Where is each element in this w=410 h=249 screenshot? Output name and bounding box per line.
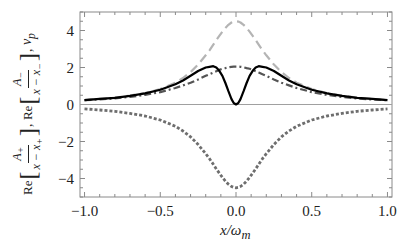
x-axis-label: x/ωm bbox=[220, 222, 250, 243]
y-label-p-sub: p bbox=[24, 33, 37, 39]
y-axis-label: Re [ A+ x − x+ ] , Re [ A− x − x− ] , vp bbox=[8, 5, 48, 195]
y-tick-label: 4 bbox=[67, 23, 75, 39]
y-label-vp: vp bbox=[19, 33, 38, 45]
y-tick-label: 0 bbox=[67, 97, 75, 113]
x-label-main: x/ω bbox=[220, 222, 241, 238]
y-tick-label: 2 bbox=[67, 60, 75, 76]
y-label-bracket-close: ] bbox=[16, 128, 40, 136]
y-label-comma-2: , bbox=[20, 49, 36, 53]
y-label-den-plus-sub: + bbox=[34, 138, 45, 145]
x-tick-label: −1.0 bbox=[71, 203, 98, 219]
x-tick-label: 0.5 bbox=[302, 203, 321, 219]
y-label-re-1: Re bbox=[20, 181, 36, 195]
y-label-a-plus: A bbox=[10, 154, 24, 161]
chart: −1.0−0.50.00.51.0−4−2024 bbox=[0, 0, 410, 249]
y-label-a-minus: A bbox=[10, 79, 24, 86]
y-label-bracket-open-2: [ bbox=[16, 97, 40, 105]
y-label-re-2: Re bbox=[20, 106, 36, 120]
x-tick-label: 1.0 bbox=[378, 203, 397, 219]
y-label-plus-sub: + bbox=[16, 147, 27, 154]
y-label-comma: , bbox=[20, 124, 36, 128]
y-label-frac-minus: A− x − x− bbox=[11, 63, 45, 95]
y-label-bracket-close-2: ] bbox=[16, 53, 40, 61]
y-label-den-minus: x − x bbox=[29, 70, 43, 95]
x-tick-label: 0.0 bbox=[227, 203, 246, 219]
y-label-minus-sub: − bbox=[16, 72, 27, 79]
y-label-v: v bbox=[19, 39, 34, 45]
y-tick-label: −2 bbox=[58, 134, 74, 150]
x-label-sub: m bbox=[241, 228, 250, 242]
y-tick-label: −4 bbox=[58, 171, 74, 187]
x-tick-label: −0.5 bbox=[147, 203, 174, 219]
y-label-den-plus: x − x bbox=[29, 145, 43, 170]
y-label-bracket-open: [ bbox=[16, 172, 40, 180]
y-label-den-minus-sub: − bbox=[34, 63, 45, 70]
y-label-frac-plus: A+ x − x+ bbox=[11, 138, 45, 170]
